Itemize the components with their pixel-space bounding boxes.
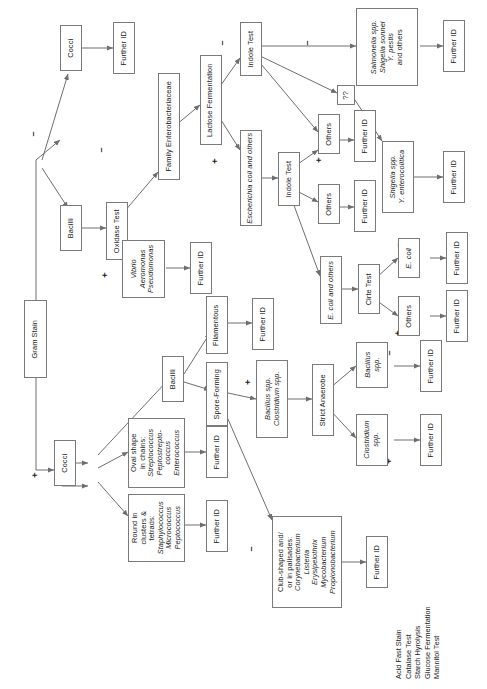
- node-others-1[interactable]: Others: [318, 114, 340, 154]
- node-label: Further ID: [450, 160, 459, 194]
- node-filamentous[interactable]: Filamentous: [206, 296, 228, 354]
- test-list: Acid Fast Stain Catalase Test Starch Hyr…: [388, 601, 487, 683]
- node-oval-shape-chains[interactable]: Oval shape in chains: Streptococcus Pept…: [128, 418, 185, 488]
- node-others-2[interactable]: Others: [318, 184, 340, 224]
- node-further-id-13[interactable]: Further ID: [420, 414, 442, 466]
- node-citrate-test[interactable]: Cirte Test: [358, 264, 380, 314]
- node-strict-anaerobe[interactable]: Strict Anaerobe: [312, 364, 334, 436]
- node-label: Clostridium spp.: [363, 421, 380, 459]
- sign-indole2-positive: +: [314, 155, 324, 165]
- node-further-id-10[interactable]: Further ID: [206, 500, 228, 552]
- node-label: Cirte Test: [365, 273, 374, 305]
- node-further-id-1[interactable]: Further ID: [113, 22, 135, 74]
- node-bacillus-spp[interactable]: Bacillus spp.: [356, 342, 388, 388]
- node-label: Bacillus spp.: [363, 352, 380, 378]
- node-label: Escherichia coli and others: [247, 132, 256, 223]
- sign-oxidase-negative: –: [96, 145, 106, 155]
- node-further-id-6[interactable]: Further ID: [354, 180, 376, 232]
- node-salmonella-group[interactable]: Salmonella spp. Shigella sonnei Y. pesti…: [356, 8, 418, 86]
- node-further-id-12[interactable]: Further ID: [420, 340, 442, 392]
- node-label: Further ID: [450, 29, 459, 63]
- sign-spore-negative: –: [246, 544, 256, 554]
- node-label: Bacilli: [67, 218, 76, 238]
- node-label: Further ID: [427, 423, 436, 457]
- node-label: Others: [405, 305, 414, 328]
- node-further-id-8[interactable]: Further ID: [446, 290, 468, 342]
- node-label: E. coli: [405, 248, 414, 269]
- node-further-id-9[interactable]: Further ID: [206, 426, 228, 478]
- node-label: E. coli and others: [327, 261, 336, 320]
- node-further-id-14[interactable]: Further ID: [366, 536, 388, 588]
- flowchart-canvas: Gram Stain – + Cocci Further ID Bacilli …: [0, 0, 487, 689]
- node-spore-forming[interactable]: Spore-Forming: [206, 362, 228, 426]
- node-label: Club-shaped and/ or in palisades: Coryne…: [277, 530, 337, 594]
- node-label: Further ID: [361, 189, 370, 223]
- node-lactose-fermentation[interactable]: Lactose Fermentation: [200, 55, 222, 145]
- node-label: ??: [342, 91, 351, 99]
- node-label: Oval shape in chains: Streptococcus Pept…: [131, 429, 183, 477]
- node-further-id-4[interactable]: Further ID: [443, 151, 465, 203]
- sign-indole1-negative: –: [302, 38, 312, 48]
- node-further-id-5[interactable]: Further ID: [354, 110, 376, 162]
- node-label: Oxidase Test: [113, 209, 122, 253]
- node-club-shaped-palisades[interactable]: Club-shaped and/ or in palisades: Coryne…: [272, 516, 342, 608]
- node-escherichia-coli-and-others[interactable]: Escherichia coli and others: [240, 130, 262, 226]
- node-label: Spore-Forming: [213, 369, 222, 420]
- sign-gram-positive: +: [30, 470, 40, 480]
- node-label: Shigella spp. Y. enterocolitica: [389, 150, 406, 204]
- node-label: Cocci: [61, 454, 70, 473]
- node-label: Round in clusters & tetrads: Staphylococ…: [131, 501, 183, 554]
- node-label: Further ID: [453, 241, 462, 275]
- node-label: Cocci: [67, 39, 76, 58]
- node-label: Salmonella spp. Shigella sonnei Y. pesti…: [370, 20, 404, 74]
- node-ecoli[interactable]: E. coli: [398, 238, 420, 278]
- node-label: Indole Test: [247, 31, 256, 68]
- node-family-enterobacteriaceae[interactable]: Family Enterobacteriaceae: [158, 73, 180, 180]
- node-further-id-3[interactable]: Further ID: [443, 20, 465, 72]
- node-label: Bacilli: [169, 369, 178, 389]
- node-bacilli-positive[interactable]: Bacilli: [162, 356, 184, 402]
- sign-lactose-negative: –: [217, 38, 227, 48]
- node-label: Family Enterobacteriaceae: [165, 81, 174, 171]
- node-cocci-negative[interactable]: Cocci: [60, 25, 82, 71]
- node-gram-stain[interactable]: Gram Stain: [24, 300, 47, 378]
- node-label: Others: [325, 123, 334, 146]
- node-shigella-group[interactable]: Shigella spp. Y. enterocolitica: [382, 141, 414, 213]
- node-ecoli-and-others[interactable]: E. coli and others: [320, 256, 342, 324]
- node-vibrio-group[interactable]: Vibrio Aeromonas Pseudomonas: [122, 240, 165, 298]
- sign-spore-positive: +: [243, 377, 253, 387]
- node-round-clusters-tetrads[interactable]: Round in clusters & tetrads: Staphylococ…: [128, 494, 185, 562]
- node-further-id-7[interactable]: Further ID: [446, 232, 468, 284]
- node-label: Further ID: [427, 349, 436, 383]
- node-cocci-positive[interactable]: Cocci: [54, 440, 76, 486]
- node-label: Further ID: [213, 435, 222, 469]
- node-label: Lactose Fermentation: [207, 63, 216, 136]
- node-others-3[interactable]: Others: [398, 296, 420, 336]
- node-label: Bacillus spp. Clostridium spp.: [263, 372, 280, 427]
- node-indole-test-1[interactable]: Indole Test: [240, 22, 262, 76]
- node-label: Vibrio Aeromonas Pseudomonas: [131, 245, 157, 293]
- node-label: Further ID: [213, 509, 222, 543]
- node-label: Gram Stain: [31, 320, 40, 358]
- node-label: Further ID: [197, 251, 206, 285]
- node-label: Filamentous: [213, 304, 222, 345]
- node-label: Strict Anaerobe: [319, 374, 328, 426]
- node-bacilli-negative[interactable]: Bacilli: [60, 205, 82, 251]
- node-label: Indole Test: [285, 161, 294, 198]
- node-bacillus-clostridium[interactable]: Bacillus spp. Clostridium spp.: [256, 360, 288, 438]
- sign-oxidase-positive: +: [100, 270, 110, 280]
- node-further-id-11[interactable]: Further ID: [252, 298, 274, 350]
- node-label: Further ID: [373, 545, 382, 579]
- sign-gram-negative: –: [28, 129, 38, 139]
- node-label: Further ID: [453, 299, 462, 333]
- node-clostridium-spp[interactable]: Clostridium spp.: [356, 414, 388, 466]
- flowchart-connectors: [0, 0, 487, 689]
- test-list-text: Acid Fast Stain Catalase Test Starch Hyr…: [394, 606, 442, 679]
- node-label: Further ID: [361, 119, 370, 153]
- node-label: Further ID: [120, 31, 129, 65]
- node-unknown[interactable]: ??: [337, 85, 355, 105]
- node-indole-test-2[interactable]: Indole Test: [278, 152, 300, 206]
- node-label: Others: [325, 193, 334, 216]
- sign-lactose-positive: +: [210, 156, 220, 166]
- node-further-id-2[interactable]: Further ID: [190, 242, 212, 294]
